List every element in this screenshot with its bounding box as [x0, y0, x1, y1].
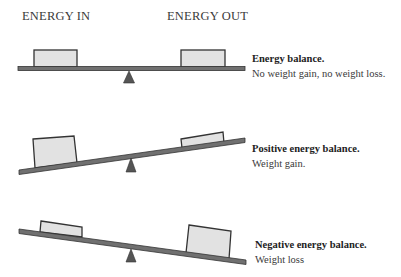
- caption-title: Energy balance.: [252, 51, 385, 66]
- panel-negative-scale: [19, 221, 246, 265]
- scale-beam: [18, 67, 245, 71]
- panel-balanced-scale: [18, 50, 245, 83]
- fulcrum-icon: [124, 71, 135, 83]
- caption-negative: Negative energy balance. Weight loss: [255, 237, 367, 267]
- caption-balanced: Energy balance. No weight gain, no weigh…: [252, 51, 385, 81]
- panel-positive-scale: [19, 132, 245, 175]
- caption-title: Negative energy balance.: [255, 237, 367, 252]
- fulcrum-icon: [126, 158, 136, 172]
- energy-in-header: ENERGY IN: [22, 9, 90, 24]
- caption-description: Weight loss: [255, 252, 367, 267]
- caption-positive: Positive energy balance. Weight gain.: [252, 141, 360, 171]
- energy-in-box: [34, 50, 77, 67]
- energy-out-header: ENERGY OUT: [167, 9, 248, 24]
- energy-out-box: [181, 50, 225, 67]
- caption-description: Weight gain.: [252, 156, 360, 171]
- energy-balance-diagram: [0, 0, 401, 277]
- caption-title: Positive energy balance.: [252, 141, 360, 156]
- caption-description: No weight gain, no weight loss.: [252, 66, 385, 81]
- fulcrum-icon: [126, 249, 136, 262]
